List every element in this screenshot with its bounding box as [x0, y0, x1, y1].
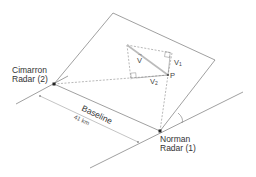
norman-radar-marker [159, 130, 162, 133]
norman-radar-id: Radar (1) [160, 144, 196, 153]
cimarron-radar-marker [53, 83, 56, 86]
elevation-angle-arc [178, 113, 183, 123]
norman-radar-label: Norman Radar (1) [160, 135, 196, 153]
point-p-label: P [170, 71, 175, 80]
v1-label: V1 [174, 58, 182, 69]
cimarron-radar-label: Cimarron Radar (2) [12, 66, 48, 84]
velocity-label: → V [137, 56, 142, 65]
velocity-vector [127, 45, 168, 75]
v2-label: V2 [150, 77, 158, 88]
cimarron-radar-id: Radar (2) [12, 75, 48, 84]
vector-arrow-glyph: → [137, 50, 143, 59]
radar-geometry-diagram [0, 0, 256, 177]
